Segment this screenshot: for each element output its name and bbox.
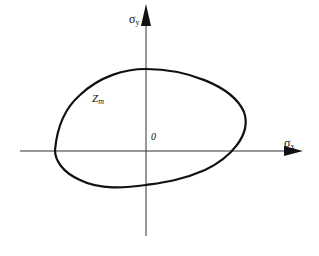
x-axis-label: σx xyxy=(284,137,294,151)
origin-label: 0 xyxy=(151,132,156,142)
stress-space-diagram xyxy=(0,0,319,256)
y-axis-subscript: y xyxy=(135,18,139,27)
curve-label: Zm xyxy=(92,93,104,106)
y-axis-label: σy xyxy=(129,13,139,27)
y-axis-arrow-icon xyxy=(141,4,151,26)
curve-label-subscript: m xyxy=(98,97,104,106)
yield-curve xyxy=(55,69,246,187)
x-axis-subscript: x xyxy=(290,142,294,151)
